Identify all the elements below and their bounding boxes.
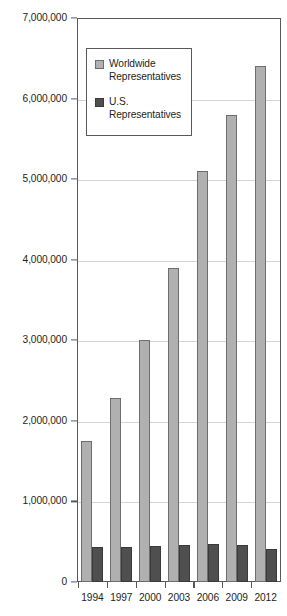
bar-us [121,547,132,582]
bar-us [92,547,103,582]
bar-worldwide [168,268,179,582]
y-tick-mark [71,501,77,502]
bar-us [266,549,277,582]
y-tick-mark [71,17,77,18]
y-tick-label: 7,000,000 [0,13,67,23]
y-tick-mark [71,259,77,260]
y-tick-mark [71,581,77,582]
x-tick-mark [165,582,166,588]
x-tick-label: 2009 [226,592,248,603]
x-tick-label: 2012 [254,592,276,603]
x-tick-label: 1997 [110,592,132,603]
bar-group [255,18,277,582]
y-tick-mark [71,420,77,421]
legend-label-worldwide: WorldwideRepresentatives [109,58,181,83]
bar-group [197,18,219,582]
bar-worldwide [139,340,150,582]
x-tick-mark [78,582,79,588]
y-tick-label: 1,000,000 [0,496,67,506]
bar-worldwide [110,398,121,583]
bar-us [179,545,190,582]
bar-us [208,544,219,582]
bar-worldwide [255,66,266,582]
legend-label-worldwide-line1: Worldwide [109,58,155,69]
bar-us [237,545,248,582]
y-tick-label: 5,000,000 [0,174,67,184]
legend-label-worldwide-line2: Representatives [109,71,181,82]
y-tick-label: 2,000,000 [0,416,67,426]
x-tick-label: 2003 [168,592,190,603]
x-tick-mark [136,582,137,588]
legend-label-us-line1: U.S. [109,96,128,107]
bar-worldwide [197,171,208,582]
bar-chart: 01,000,0002,000,0003,000,0004,000,0005,0… [0,0,287,616]
worldwide-swatch-icon [95,60,104,69]
x-tick-label: 2000 [139,592,161,603]
y-tick-label: 3,000,000 [0,335,67,345]
x-tick-mark [107,582,108,588]
y-tick-label: 4,000,000 [0,255,67,265]
bar-worldwide [226,115,237,582]
y-tick-label: 0 [0,577,67,587]
x-tick-mark [193,582,194,588]
bar-group [226,18,248,582]
legend-label-us: U.S.Representatives [109,96,181,121]
y-tick-label: 6,000,000 [0,93,67,103]
legend-entry-us: U.S.Representatives [95,96,191,121]
legend-label-us-line2: Representatives [109,109,181,120]
x-tick-label: 1994 [81,592,103,603]
legend: WorldwideRepresentatives U.S.Representat… [86,48,192,136]
bar-us [150,546,161,582]
y-tick-mark [71,98,77,99]
legend-entry-worldwide: WorldwideRepresentatives [95,58,191,83]
y-tick-mark [71,179,77,180]
x-tick-label: 2006 [197,592,219,603]
y-tick-mark [71,340,77,341]
x-tick-mark [222,582,223,588]
bar-worldwide [81,441,92,582]
x-tick-mark [251,582,252,588]
us-swatch-icon [95,98,104,107]
